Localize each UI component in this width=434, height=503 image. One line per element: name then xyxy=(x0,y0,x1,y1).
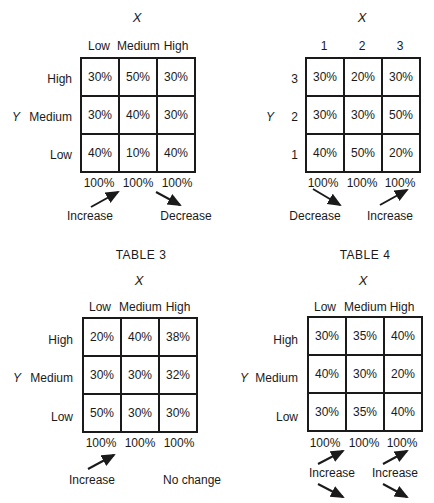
decrease-arrow-icon xyxy=(0,0,434,503)
